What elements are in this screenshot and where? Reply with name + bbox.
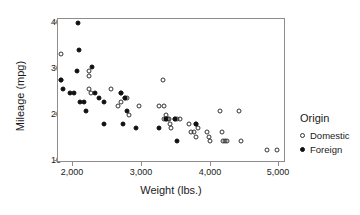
data-point-foreign	[82, 99, 87, 104]
data-point-foreign	[83, 108, 88, 113]
data-point-domestic	[87, 69, 92, 74]
x-tick-mark-5000	[278, 162, 279, 166]
x-tick-label-4000: 4,000	[199, 167, 222, 177]
data-point-domestic	[115, 104, 120, 109]
data-point-domestic	[108, 86, 113, 91]
data-point-foreign	[164, 117, 169, 122]
legend: Origin Domestic Foreign	[300, 112, 360, 158]
data-point-foreign	[101, 121, 106, 126]
data-point-domestic	[177, 117, 182, 122]
data-point-foreign	[76, 47, 81, 52]
data-point-domestic	[236, 108, 241, 113]
data-point-foreign	[172, 117, 177, 122]
data-point-domestic	[275, 147, 280, 152]
data-point-domestic	[137, 104, 142, 109]
plot-area	[57, 18, 285, 162]
data-point-domestic	[195, 126, 200, 131]
data-point-foreign	[174, 139, 179, 144]
x-tick-label-2000: 2,000	[61, 167, 84, 177]
data-point-domestic	[160, 78, 165, 83]
data-point-foreign	[157, 126, 162, 131]
data-point-domestic	[239, 139, 244, 144]
data-point-domestic	[224, 139, 229, 144]
x-axis-title: Weight (lbs.)	[57, 184, 285, 196]
data-point-domestic	[265, 147, 270, 152]
data-point-foreign	[74, 69, 79, 74]
scatter-plot-figure: 40 30 20 10 2,000 3,000 4,000 5,000 Weig…	[0, 0, 360, 215]
data-point-domestic	[217, 108, 222, 113]
data-points-layer	[58, 19, 284, 161]
data-point-foreign	[72, 91, 77, 96]
legend-item-domestic[interactable]: Domestic	[300, 130, 360, 141]
legend-title: Origin	[300, 112, 360, 124]
data-point-domestic	[87, 73, 92, 78]
data-point-foreign	[60, 86, 65, 91]
data-point-foreign	[133, 126, 138, 131]
x-tick-label-5000: 5,000	[267, 167, 290, 177]
data-point-foreign	[58, 78, 63, 83]
data-point-foreign	[120, 121, 125, 126]
data-point-foreign	[125, 108, 130, 113]
data-point-foreign	[194, 121, 199, 126]
data-point-domestic	[187, 121, 192, 126]
x-tick-mark-2000	[72, 162, 73, 166]
data-point-domestic	[169, 126, 174, 131]
data-point-domestic	[58, 51, 63, 56]
data-point-foreign	[90, 65, 95, 70]
legend-label-foreign: Foreign	[310, 144, 342, 155]
x-tick-label-3000: 3,000	[130, 167, 153, 177]
open-circle-icon	[300, 133, 305, 138]
legend-item-foreign[interactable]: Foreign	[300, 144, 360, 155]
data-point-foreign	[101, 99, 106, 104]
data-point-domestic	[126, 113, 131, 118]
data-point-domestic	[194, 134, 199, 139]
data-point-foreign	[96, 95, 101, 100]
x-tick-mark-3000	[141, 162, 142, 166]
data-point-domestic	[208, 139, 213, 144]
data-point-domestic	[162, 104, 167, 109]
data-point-foreign	[122, 95, 127, 100]
data-point-domestic	[219, 130, 224, 135]
legend-label-domestic: Domestic	[310, 130, 350, 141]
x-tick-mark-4000	[210, 162, 211, 166]
data-point-foreign	[75, 21, 80, 26]
data-point-domestic	[118, 99, 123, 104]
filled-circle-icon	[300, 147, 305, 152]
y-axis-title: Mileage (mpg)	[14, 26, 26, 166]
